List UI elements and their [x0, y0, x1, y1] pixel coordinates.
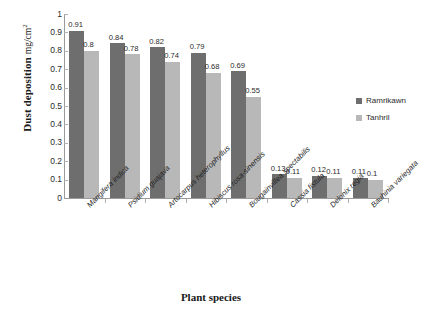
legend-item[interactable]: Tanhril: [356, 114, 406, 122]
bar-group: 0.120.11: [307, 14, 348, 198]
legend-item[interactable]: Ramrikawn: [356, 97, 406, 105]
bar-value-label: 0.84: [109, 34, 124, 42]
y-axis-unit: mg/cm2: [21, 24, 33, 54]
x-axis-tick-mark: [388, 199, 389, 203]
bar-value-label: 0.69: [230, 62, 245, 70]
y-axis-tick-label: 0.5: [38, 102, 62, 111]
bar-value-label: 0.8: [83, 41, 94, 49]
legend-swatch-icon: [356, 98, 362, 104]
x-axis-tick-mark: [186, 199, 187, 203]
x-axis-tick-mark: [105, 199, 106, 203]
x-axis-tick-mark: [145, 199, 146, 203]
y-axis-tick-label: 0.8: [38, 46, 62, 55]
bar-group: 0.910.8: [64, 14, 105, 198]
bar-value-label: 0.74: [164, 52, 179, 60]
plot-area: 0.910.80.840.780.820.740.790.680.690.550…: [64, 14, 388, 198]
x-axis-tick-mark: [348, 199, 349, 203]
y-axis-title-text: Dust deposition: [21, 57, 33, 132]
y-axis-tick-mark: [64, 106, 68, 107]
legend: RamrikawnTanhril: [356, 97, 406, 131]
y-axis-tick-mark: [64, 69, 68, 70]
legend-label: Ramrikawn: [366, 97, 406, 105]
bar-tanhril[interactable]: [165, 62, 180, 198]
bar-value-label: 0.91: [68, 21, 83, 29]
bar-value-label: 0.11: [326, 168, 340, 176]
y-axis-tick-label: 0.3: [38, 138, 62, 147]
y-axis-tick-mark: [64, 143, 68, 144]
y-axis-tick-mark: [64, 88, 68, 89]
y-axis-tick-label: 0: [38, 194, 62, 203]
dust-deposition-bar-chart: Dust deposition mg/cm2 10.90.80.70.60.50…: [0, 0, 422, 318]
y-axis-tick-labels: 10.90.80.70.60.50.40.30.20.10: [36, 0, 62, 318]
bar-value-label: 0.1: [367, 170, 378, 178]
y-axis-tick-mark: [64, 14, 68, 15]
x-axis-tick-mark: [307, 199, 308, 203]
x-axis-tick-mark: [226, 199, 227, 203]
bar-value-label: 0.68: [205, 63, 220, 71]
bar-value-label: 0.78: [124, 45, 139, 53]
bar-value-label: 0.82: [149, 38, 164, 46]
bar-ramrikawn[interactable]: [69, 31, 84, 198]
y-axis-tick-mark: [64, 51, 68, 52]
y-axis-tick-label: 0.2: [38, 157, 62, 166]
bar-tanhril[interactable]: [246, 97, 261, 198]
bar-value-label: 0.55: [245, 87, 260, 95]
y-axis-tick-label: 0.6: [38, 83, 62, 92]
y-axis-tick-mark: [64, 180, 68, 181]
bar-value-label: 0.79: [190, 43, 205, 51]
bar-tanhril[interactable]: [84, 51, 99, 198]
y-axis-tick-label: 0.4: [38, 120, 62, 129]
bar-tanhril[interactable]: [125, 54, 140, 198]
y-axis-tick-label: 0.9: [38, 28, 62, 37]
bar-tanhril[interactable]: [206, 73, 221, 198]
y-axis-tick-label: 1: [38, 10, 62, 19]
x-axis-tick-mark: [267, 199, 268, 203]
legend-swatch-icon: [356, 115, 362, 121]
y-axis-tick-label: 0.7: [38, 65, 62, 74]
y-axis-tick-mark: [64, 124, 68, 125]
y-axis-tick-mark: [64, 32, 68, 33]
y-axis-tick-label: 0.1: [38, 175, 62, 184]
y-axis-tick-mark: [64, 161, 68, 162]
x-axis-title: Plant species: [0, 291, 422, 303]
legend-label: Tanhril: [366, 114, 390, 122]
